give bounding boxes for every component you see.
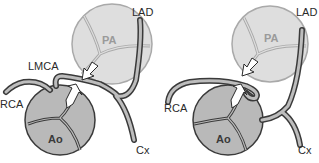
rca-label: RCA (164, 102, 188, 114)
cx-label: Cx (298, 144, 312, 156)
aorta: Ao (25, 85, 95, 155)
rca-label: RCA (0, 98, 24, 110)
lad-label: LAD (132, 6, 153, 18)
cx-label: Cx (136, 144, 150, 156)
left-panel: PA Ao LAD LMCA RCA C (0, 4, 153, 156)
ao-label: Ao (216, 133, 231, 145)
pa-label: PA (102, 34, 117, 46)
lad-label: LAD (296, 6, 317, 18)
right-panel: PA Ao LAD RCA Cx (164, 6, 317, 156)
lmca-label: LMCA (28, 60, 59, 72)
coronary-anomaly-diagram: PA Ao LAD LMCA RCA C (0, 0, 319, 163)
ao-label: Ao (48, 133, 63, 145)
pa-label: PA (264, 32, 279, 44)
